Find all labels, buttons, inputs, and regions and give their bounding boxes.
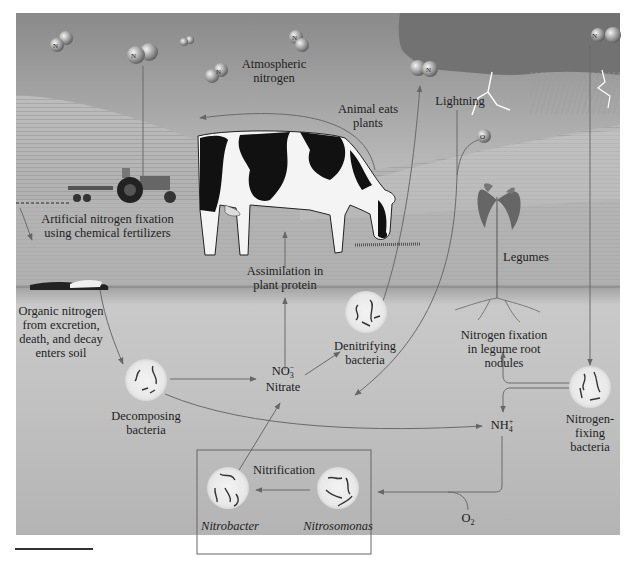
formula-sub: 4 bbox=[509, 426, 514, 434]
label-line: Nitrogen fixation bbox=[460, 328, 548, 342]
decomposing-bacteria-circle bbox=[125, 359, 167, 401]
label-line: in legume root bbox=[460, 342, 548, 356]
label-line: Organic nitrogen bbox=[16, 304, 106, 318]
svg-text:N: N bbox=[53, 42, 58, 50]
svg-text:N: N bbox=[216, 68, 221, 76]
label-nitrification: Nitrification bbox=[252, 463, 316, 477]
formula-text: NH bbox=[491, 418, 509, 432]
label-line: Nitrogen- bbox=[560, 412, 620, 426]
nitrobacter-circle bbox=[207, 467, 249, 509]
label-assimilation: Assimilation in plant protein bbox=[243, 264, 327, 292]
svg-text:N: N bbox=[426, 66, 431, 74]
label-line: Assimilation in bbox=[243, 264, 327, 278]
label-line: plant protein bbox=[243, 278, 327, 292]
formula-text: O bbox=[461, 511, 470, 525]
label-line: from excretion, bbox=[16, 318, 106, 332]
soil-background bbox=[16, 285, 620, 535]
denitrifying-bacteria-circle bbox=[345, 291, 387, 333]
label-lightning: Lightning bbox=[430, 94, 490, 108]
label-line: Decomposing bbox=[108, 409, 184, 423]
label-line: using chemical fertilizers bbox=[25, 226, 190, 240]
label-nitrosomonas: Nitrosomonas bbox=[300, 519, 376, 533]
nitrate-name: Nitrate bbox=[258, 380, 308, 394]
label-o2-soil: O2 bbox=[458, 511, 478, 530]
label-line: death, and decay bbox=[16, 332, 106, 346]
svg-text:O: O bbox=[480, 133, 485, 141]
formula-sub: 3 bbox=[290, 372, 295, 380]
nitrate-formula: NO−3 bbox=[258, 364, 308, 380]
formula-subsup: −3 bbox=[290, 364, 295, 380]
label-decomposing-bacteria: Decomposing bacteria bbox=[108, 409, 184, 437]
label-line: Artificial nitrogen fixation bbox=[25, 212, 190, 226]
label-nitrobacter: Nitrobacter bbox=[200, 519, 260, 533]
label-line: Animal eats bbox=[328, 102, 408, 116]
formula-text: NO bbox=[272, 364, 290, 378]
formula-subsup: +4 bbox=[509, 418, 514, 434]
label-artificial-fixation: Artificial nitrogen fixation using chemi… bbox=[25, 212, 190, 240]
label-line: nodules bbox=[460, 356, 548, 370]
label-nitrate: NO−3 Nitrate bbox=[258, 364, 308, 394]
label-line: nitrogen bbox=[234, 71, 314, 85]
svg-text:N: N bbox=[592, 32, 597, 40]
svg-text:N: N bbox=[292, 34, 297, 42]
label-organic-nitrogen: Organic nitrogen from excretion, death, … bbox=[16, 304, 106, 360]
o2-molecule: O bbox=[477, 129, 491, 143]
label-nitrogen-fixing-bacteria: Nitrogen- fixing bacteria bbox=[560, 412, 620, 454]
label-line: plants bbox=[328, 116, 408, 130]
label-nitrogen-fixation-nodules: Nitrogen fixation in legume root nodules bbox=[460, 328, 548, 370]
label-line: bacteria bbox=[325, 353, 405, 367]
nitrogen-cycle-diagram: N N N N N N O bbox=[0, 0, 635, 584]
diagram-artwork: N N N N N N O bbox=[0, 0, 635, 584]
label-line: enters soil bbox=[16, 346, 106, 360]
label-line: bacteria bbox=[560, 440, 620, 454]
label-line: bacteria bbox=[108, 423, 184, 437]
label-line: Denitrifying bbox=[325, 339, 405, 353]
label-legumes: Legumes bbox=[498, 250, 554, 264]
label-animal-eats-plants: Animal eats plants bbox=[328, 102, 408, 130]
label-line: fixing bbox=[560, 426, 620, 440]
nitrogen-fixing-bacteria-circle bbox=[569, 366, 611, 408]
label-denitrifying-bacteria: Denitrifying bacteria bbox=[325, 339, 405, 367]
label-line: Atmospheric bbox=[234, 57, 314, 71]
figure-rule bbox=[15, 548, 93, 550]
svg-text:N: N bbox=[131, 52, 136, 60]
label-atmospheric-nitrogen: Atmospheric nitrogen bbox=[234, 57, 314, 85]
nitrosomonas-circle bbox=[317, 467, 359, 509]
formula-sub: 2 bbox=[471, 518, 475, 527]
label-ammonium: NH+4 bbox=[484, 418, 520, 434]
